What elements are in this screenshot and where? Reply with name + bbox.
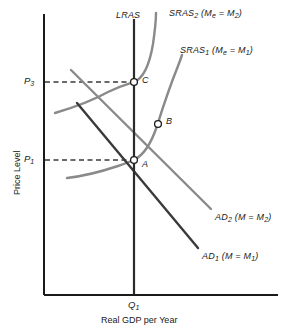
point-b-marker [155, 121, 162, 128]
curve-label-ad1: AD1 (M = M1) [202, 251, 258, 261]
sras2-paren-close: ) [239, 8, 242, 18]
sras2-paren-tail: = M [216, 8, 235, 18]
p3-sub: 3 [30, 80, 34, 87]
ad2-paren: (M = M [235, 212, 264, 222]
y-tick-label-p1: P1 [24, 153, 34, 164]
curve-ad1 [77, 103, 198, 248]
point-label-a: A [142, 159, 148, 169]
guide-lines [45, 82, 132, 160]
ad1-sub: 1 [215, 255, 219, 262]
ad1-base: AD [202, 251, 215, 261]
sras1-paren-sub: e [223, 49, 227, 56]
lras-base: LRAS [116, 10, 140, 20]
sras1-paren-sub2: 1 [246, 49, 250, 56]
sras2-base: SRAS [169, 8, 194, 18]
curve-label-sras1: SRAS1 (Me = M1) [180, 45, 253, 55]
curve-label-lras: LRAS [116, 10, 140, 20]
ad1-paren: (M = M [222, 251, 251, 261]
point-label-c: C [142, 75, 149, 85]
curve-label-ad2: AD2 (M = M2) [215, 212, 271, 222]
y-tick-label-p3: P3 [24, 75, 34, 86]
y-axis-title: Price Level [12, 150, 22, 195]
p1-sub: 1 [30, 158, 34, 165]
sras2-paren-sub: e [212, 12, 216, 19]
sras1-paren: (M [212, 45, 223, 55]
curve-label-sras2: SRAS2 (Me = M2) [169, 8, 242, 18]
q1-sub: 1 [135, 304, 139, 311]
sras1-base: SRAS [180, 45, 205, 55]
curve-sras2 [55, 13, 156, 113]
ad1-paren-sub2: 1 [251, 255, 255, 262]
point-a-marker [131, 157, 138, 164]
ad2-base: AD [215, 212, 228, 222]
point-c-marker [131, 79, 138, 86]
sras1-paren-close: ) [250, 45, 253, 55]
x-axis-title: Real GDP per Year [101, 315, 177, 325]
sras2-sub: 2 [194, 12, 198, 19]
sras2-paren: (M [201, 8, 212, 18]
sras1-sub: 1 [205, 49, 209, 56]
sras2-paren-sub2: 2 [235, 12, 239, 19]
point-label-b: B [166, 116, 172, 126]
sras1-paren-tail: = M [227, 45, 246, 55]
curve-ad2 [71, 70, 211, 209]
ad1-paren-close: ) [255, 251, 258, 261]
ad-as-diagram: SRAS2 (Me = M2) SRAS1 (Me = M1) LRAS AD2… [0, 0, 288, 329]
ad2-paren-sub2: 2 [264, 216, 268, 223]
ad2-sub: 2 [228, 216, 232, 223]
x-tick-label-q1: Q1 [128, 299, 139, 310]
ad2-paren-close: ) [268, 212, 271, 222]
